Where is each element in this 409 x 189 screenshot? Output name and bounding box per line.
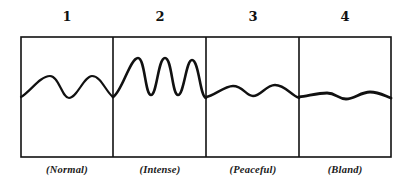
wave-intense	[113, 58, 206, 98]
wave-normal	[21, 76, 113, 98]
panel-label-intense: (Intense)	[114, 164, 206, 175]
panel-label-peaceful: (Peaceful)	[207, 164, 299, 175]
panel-label-bland: (Bland)	[299, 164, 391, 175]
mood-waveform-figure: 1 2 3 4 (Normal) (Intense) (Peaceful) (B…	[0, 0, 409, 189]
panel-label-normal: (Normal)	[21, 164, 113, 175]
waveform-frame	[0, 0, 409, 189]
wave-peaceful	[206, 85, 299, 98]
wave-bland	[299, 92, 391, 99]
